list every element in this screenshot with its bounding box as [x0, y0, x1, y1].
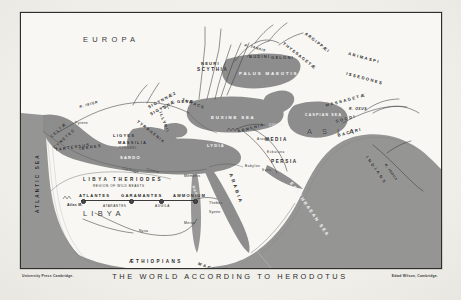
engraver-credit: Edwd Wilson, Cambridge. — [392, 274, 438, 278]
map-frame: EUROPA LIBYA ASIA ATLANTIC SEA EUXINE SE… — [20, 12, 442, 269]
map-title: THE WORLD ACCORDING TO HERODOTUS — [20, 272, 440, 281]
caravan-stop-2 — [129, 199, 134, 204]
map-page: EUROPA LIBYA ASIA ATLANTIC SEA EUXINE SE… — [0, 0, 461, 300]
publisher-credit: University Press Cambridge. — [22, 274, 74, 278]
caravan-route-line — [81, 200, 196, 201]
caravan-stop-3 — [159, 199, 164, 204]
map-artwork — [21, 13, 441, 268]
caravan-stop-1 — [81, 199, 86, 204]
caravan-stop-4 — [193, 199, 198, 204]
map-caption: THE WORLD ACCORDING TO HERODOTUS Univers… — [20, 272, 440, 286]
